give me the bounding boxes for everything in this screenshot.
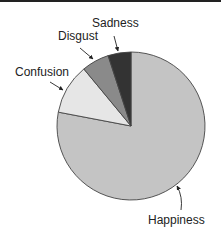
pie-slices xyxy=(57,52,205,200)
label-happiness: Happiness xyxy=(148,213,205,227)
callout-sadness: Sadness xyxy=(92,16,139,51)
callout-confusion: Confusion xyxy=(15,65,69,90)
pie-chart: Sadness Disgust Confusion Happiness xyxy=(0,0,221,240)
label-sadness: Sadness xyxy=(92,16,139,30)
callout-disgust: Disgust xyxy=(58,29,99,59)
label-disgust: Disgust xyxy=(58,29,99,43)
label-confusion: Confusion xyxy=(15,65,69,79)
